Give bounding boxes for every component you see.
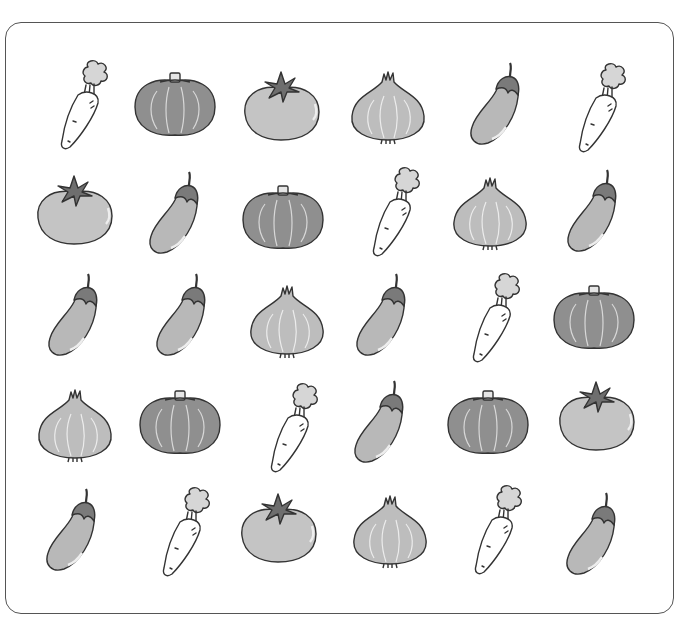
- eggplant-icon: [543, 162, 643, 262]
- onion-icon: [340, 480, 440, 580]
- carrot-icon: [340, 162, 440, 262]
- onion-icon: [338, 56, 438, 156]
- onion-icon: [25, 374, 125, 474]
- eggplant-icon: [24, 266, 124, 366]
- pumpkin-icon: [130, 373, 230, 473]
- pumpkin-icon: [438, 373, 538, 473]
- eggplant-icon: [332, 266, 432, 366]
- pumpkin-icon: [233, 168, 333, 268]
- pumpkin-icon: [544, 268, 644, 368]
- onion-icon: [237, 270, 337, 370]
- tomato-icon: [228, 480, 328, 580]
- tomato-icon: [546, 368, 646, 468]
- eggplant-icon: [125, 164, 225, 264]
- carrot-icon: [546, 58, 646, 158]
- onion-icon: [440, 162, 540, 262]
- carrot-icon: [440, 268, 540, 368]
- eggplant-icon: [132, 266, 232, 366]
- tomato-icon: [231, 58, 331, 158]
- carrot-icon: [238, 378, 338, 478]
- carrot-icon: [28, 55, 128, 155]
- eggplant-icon: [22, 481, 122, 581]
- eggplant-icon: [542, 485, 642, 585]
- pumpkin-icon: [125, 55, 225, 155]
- eggplant-icon: [446, 55, 546, 155]
- carrot-icon: [442, 480, 542, 580]
- tomato-icon: [24, 162, 124, 262]
- eggplant-icon: [330, 373, 430, 473]
- carrot-icon: [130, 482, 230, 582]
